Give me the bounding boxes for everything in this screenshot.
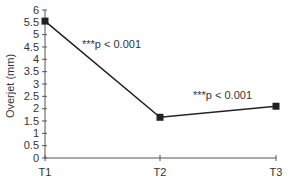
series-line bbox=[45, 21, 276, 117]
data-series bbox=[42, 18, 280, 121]
y-tick-label: 4 bbox=[33, 53, 39, 65]
y-tick-label: 5 bbox=[33, 28, 39, 40]
significance-annotation: ***p < 0.001 bbox=[193, 89, 252, 101]
y-tick-label: 2.5 bbox=[24, 90, 39, 102]
y-tick-label: 4.5 bbox=[24, 41, 39, 53]
data-point-marker bbox=[42, 18, 49, 25]
y-tick-label: 2 bbox=[33, 102, 39, 114]
data-point-marker bbox=[273, 103, 280, 110]
y-tick-label: 0 bbox=[33, 152, 39, 164]
y-tick-label: 3.5 bbox=[24, 65, 39, 77]
y-tick-label: 1.5 bbox=[24, 115, 39, 127]
y-tick-label: 6 bbox=[33, 4, 39, 16]
y-tick-label: 0.5 bbox=[24, 139, 39, 151]
x-tick-label: T3 bbox=[270, 166, 283, 178]
y-tick-label: 5.5 bbox=[24, 16, 39, 28]
overjet-line-chart: 00.511.522.533.544.555.56 T1T2T3 Overjet… bbox=[0, 0, 288, 185]
data-point-marker bbox=[157, 114, 164, 121]
x-axis: T1T2T3 bbox=[39, 155, 283, 178]
x-tick-label: T2 bbox=[154, 166, 167, 178]
x-tick-label: T1 bbox=[39, 166, 52, 178]
annotations: ***p < 0.001***p < 0.001 bbox=[82, 38, 252, 101]
y-tick-label: 3 bbox=[33, 78, 39, 90]
y-tick-label: 1 bbox=[33, 127, 39, 139]
y-axis-label: Overjet (mm) bbox=[4, 54, 16, 118]
y-axis: 00.511.522.533.544.555.56 bbox=[24, 4, 47, 164]
significance-annotation: ***p < 0.001 bbox=[82, 38, 141, 50]
